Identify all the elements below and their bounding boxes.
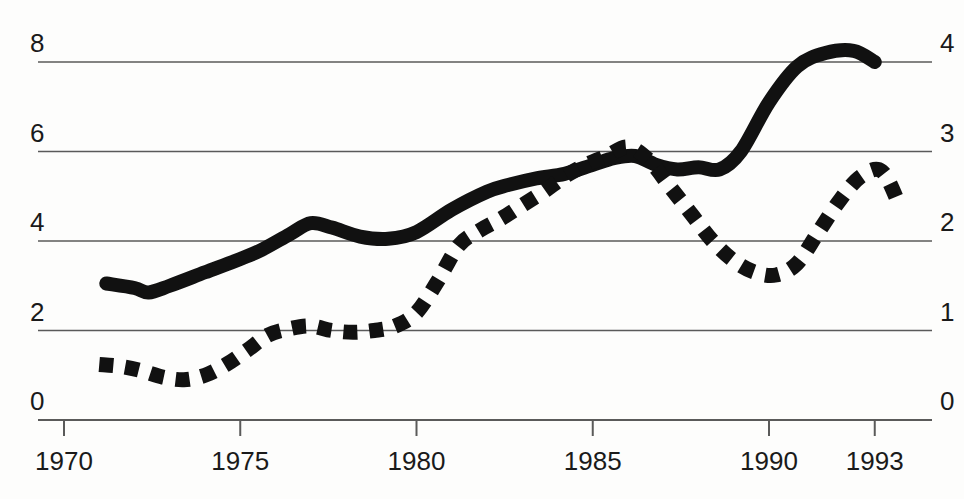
x-axis-tick-label: 1985	[564, 448, 622, 474]
x-axis-tick-label: 1990	[740, 448, 798, 474]
y-axis-right-tick-label: 2	[940, 209, 954, 235]
y-axis-left-tick-label: 0	[30, 388, 44, 414]
chart-container: 02468 01234 197019751980198519901993	[0, 0, 964, 499]
y-axis-right-tick-label: 3	[940, 120, 954, 146]
x-axis-tick-label: 1980	[388, 448, 446, 474]
chart-plot-area	[0, 0, 964, 499]
series-line-solid-line	[106, 50, 874, 292]
y-axis-right-tick-label: 4	[940, 30, 954, 56]
y-axis-left-tick-label: 2	[30, 299, 44, 325]
x-axis	[64, 420, 875, 436]
x-axis-tick-label: 1970	[35, 448, 93, 474]
gridlines	[38, 62, 932, 420]
y-axis-left-tick-label: 8	[30, 30, 44, 56]
x-axis-tick-label: 1993	[846, 448, 904, 474]
x-axis-tick-label: 1975	[211, 448, 269, 474]
y-axis-left-tick-label: 6	[30, 120, 44, 146]
y-axis-right-tick-label: 0	[940, 388, 954, 414]
y-axis-left-tick-label: 4	[30, 209, 44, 235]
y-axis-right-tick-label: 1	[940, 299, 954, 325]
